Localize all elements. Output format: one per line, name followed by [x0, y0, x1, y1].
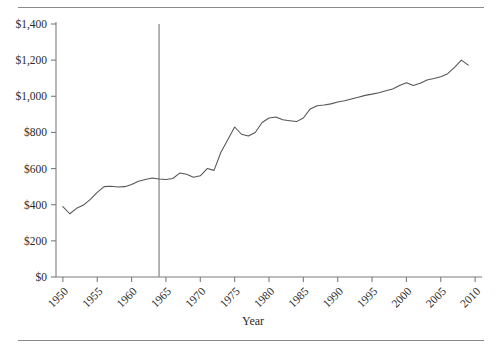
- x-tick-label: 1985: [286, 285, 311, 310]
- x-axis-title: Year: [242, 314, 264, 328]
- y-tick-label: $600: [24, 163, 47, 175]
- x-axis-labels: 1950195519601965197019751980198519901995…: [46, 285, 483, 310]
- y-tick-label: $1,400: [15, 18, 47, 31]
- x-tick-label: 1965: [149, 285, 174, 310]
- y-axis-ticks: [51, 24, 56, 277]
- x-tick-label: 1990: [320, 285, 345, 310]
- y-tick-label: $800: [24, 126, 47, 138]
- x-tick-label: 1960: [114, 285, 139, 310]
- y-tick-label: $1,200: [15, 54, 47, 67]
- x-tick-label: 1975: [217, 285, 242, 310]
- x-tick-label: 1970: [183, 285, 208, 310]
- x-tick-label: 2005: [423, 285, 448, 310]
- x-tick-label: 1995: [355, 285, 380, 310]
- data-series-line: [63, 60, 468, 214]
- x-tick-label: 1980: [252, 285, 277, 310]
- figure-container: $0$200$400$600$800$1,000$1,200$1,400 195…: [0, 0, 498, 352]
- y-tick-label: $1,000: [15, 90, 47, 103]
- x-axis-ticks: [63, 277, 475, 282]
- y-tick-label: $200: [24, 235, 47, 247]
- x-tick-label: 1950: [46, 285, 71, 310]
- y-axis-labels: $0$200$400$600$800$1,000$1,200$1,400: [15, 18, 47, 283]
- y-tick-label: $0: [36, 271, 48, 283]
- x-tick-label: 1955: [80, 285, 105, 310]
- y-tick-label: $400: [24, 199, 47, 211]
- x-tick-label: 2010: [458, 285, 483, 310]
- x-tick-label: 2000: [389, 285, 414, 310]
- line-chart: $0$200$400$600$800$1,000$1,200$1,400 195…: [0, 0, 498, 352]
